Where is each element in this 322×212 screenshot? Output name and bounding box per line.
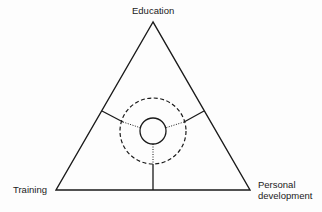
inner-circle	[140, 118, 166, 144]
label-education: Education	[132, 5, 174, 16]
label-development: development	[258, 190, 312, 201]
triangle-diagram: Education Training Personal development	[0, 0, 322, 212]
label-training: Training	[13, 184, 47, 195]
right-connector-solid	[184, 111, 204, 122]
left-connector-dotted	[123, 122, 141, 128]
left-connector-solid	[102, 111, 123, 122]
label-personal-development: Personal development	[258, 179, 312, 201]
label-personal: Personal	[258, 179, 312, 190]
right-connector-dotted	[165, 122, 184, 128]
